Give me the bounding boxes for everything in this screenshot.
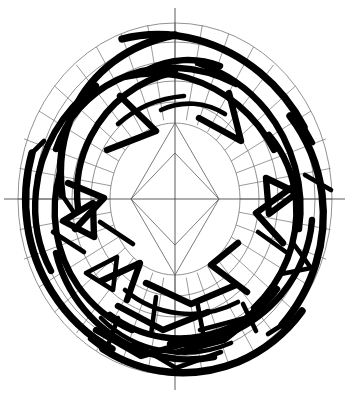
knotwork-rosette-figure <box>0 0 349 396</box>
figure-root <box>0 0 349 396</box>
